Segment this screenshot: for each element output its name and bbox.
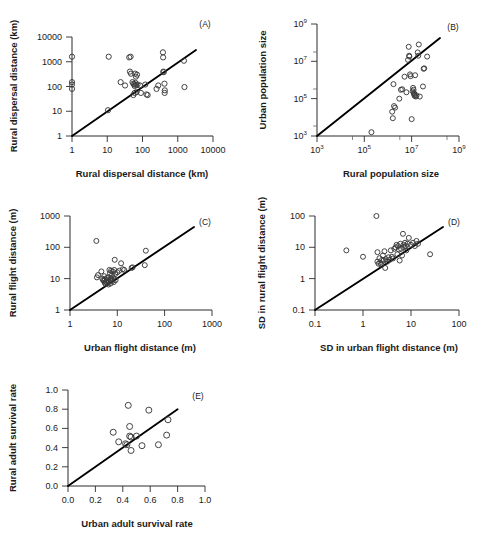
panel-B-canvas: 109 107 105 103 103 105 107 109 Rural po…: [251, 0, 501, 190]
data-point: [125, 402, 131, 408]
data-point: [155, 442, 161, 448]
xtick-label: 109: [452, 143, 466, 155]
panel-D-xaxis-title: SD in urban flight distance (m): [320, 342, 458, 353]
panel-A-ytick-labels: 10000 1000 100 10 1: [37, 32, 62, 141]
panel-E-yaxis-title: Rural adult survival rate: [7, 384, 18, 492]
panel-D-reference-line: [315, 227, 443, 310]
data-point: [110, 429, 116, 435]
data-point: [99, 269, 104, 274]
panel-E: 1.0 0.8 0.6 0.4 0.2 0.0 0.0 0.2 0.4 0.6 …: [0, 362, 250, 545]
xtick-label: 0.6: [144, 495, 157, 505]
ytick-label: 0.6: [45, 423, 58, 433]
panel-D-ytick-labels: 100 10 1 0.1: [290, 211, 305, 315]
panel-B: 109 107 105 103 103 105 107 109 Rural po…: [251, 0, 501, 190]
xtick-label: 0.1: [309, 319, 322, 329]
ytick-label: 1000: [40, 211, 60, 221]
ytick-label: 0.0: [45, 481, 58, 491]
data-point: [400, 231, 405, 236]
ytick-label: 10: [52, 106, 62, 116]
xtick-label: 10: [102, 145, 112, 155]
data-point: [406, 235, 411, 240]
panel-D: 100 10 1 0.1 0.1 1 10 100 SD in urban fl…: [251, 185, 501, 365]
data-point: [404, 90, 409, 95]
data-point: [391, 82, 396, 87]
data-point: [162, 81, 167, 86]
data-point: [127, 423, 133, 429]
data-point: [369, 130, 374, 135]
panel-E-xtick-labels: 0.0 0.2 0.4 0.6 0.8 1.0: [62, 495, 212, 505]
data-point: [409, 117, 414, 122]
panel-D-canvas: 100 10 1 0.1 0.1 1 10 100 SD in urban fl…: [251, 185, 501, 365]
xtick-label: 10: [406, 319, 416, 329]
panel-C-yaxis-title: Rural flight distance (m): [7, 209, 18, 318]
data-point: [165, 417, 171, 423]
data-point: [139, 443, 145, 449]
ytick-label: 0.8: [45, 404, 58, 414]
panel-A-xaxis-title: Rural dispersal distance (km): [76, 168, 209, 179]
data-point: [94, 238, 99, 243]
data-point: [182, 84, 187, 89]
data-point: [428, 252, 433, 257]
ytick-label: 107: [294, 54, 308, 66]
data-point: [122, 83, 127, 88]
panel-E-reference-line: [68, 409, 178, 486]
ytick-label: 100: [290, 211, 305, 221]
data-point: [397, 258, 402, 263]
panel-A-data-points: [69, 50, 187, 113]
ytick-label: 100: [45, 242, 60, 252]
ytick-label: 105: [294, 92, 308, 104]
panel-E-data-points: [110, 402, 171, 453]
data-point: [146, 407, 152, 413]
ytick-label: 0.1: [292, 305, 305, 315]
panel-E-canvas: 1.0 0.8 0.6 0.4 0.2 0.0 0.0 0.2 0.4 0.6 …: [0, 362, 250, 545]
xtick-label: 0.4: [117, 495, 130, 505]
data-point: [344, 248, 349, 253]
panel-C-ytick-labels: 1000 100 10 1: [40, 211, 60, 315]
data-point: [142, 263, 147, 268]
ytick-label: 0.4: [45, 443, 58, 453]
data-point: [361, 254, 366, 259]
panel-C-tag: (C): [199, 217, 211, 227]
panel-B-ytick-labels: 109 107 105 103: [294, 17, 308, 141]
data-point: [112, 257, 117, 262]
ytick-label: 1000: [42, 57, 62, 67]
data-point: [119, 261, 124, 266]
xtick-label: 1: [69, 145, 74, 155]
ytick-label: 10000: [37, 32, 62, 42]
data-point: [390, 116, 395, 121]
data-point: [116, 439, 122, 445]
data-point: [402, 74, 407, 79]
panel-B-tag: (B): [447, 22, 459, 32]
xtick-label: 10: [112, 319, 122, 329]
xtick-label: 10000: [200, 145, 225, 155]
data-point: [420, 84, 425, 89]
data-point: [375, 250, 380, 255]
panel-E-ytick-labels: 1.0 0.8 0.6 0.4 0.2 0.0: [45, 385, 58, 491]
panel-A-canvas: 10000 1000 100 10 1 1 10 100 1000 10000 …: [0, 0, 250, 190]
panel-B-reference-line: [317, 38, 440, 136]
panel-E-tag: (E): [192, 391, 204, 401]
ytick-label: 10: [50, 274, 60, 284]
panel-A-tag: (A): [199, 19, 211, 29]
data-point: [406, 44, 411, 49]
xtick-label: 100: [157, 319, 172, 329]
data-point: [393, 105, 398, 110]
xtick-label: 0.0: [62, 495, 75, 505]
panel-C-xtick-labels: 1 10 100 1000: [67, 319, 222, 329]
xtick-label: 0.8: [171, 495, 184, 505]
scatter-plot-figure: 10000 1000 100 10 1 1 10 100 1000 10000 …: [0, 0, 501, 545]
ytick-label: 1: [57, 131, 62, 141]
data-point: [416, 42, 421, 47]
xtick-label: 103: [310, 143, 324, 155]
ytick-label: 10: [295, 242, 305, 252]
panel-B-yaxis-title: Urban population size: [257, 30, 268, 129]
panel-C-reference-line: [70, 227, 194, 310]
xtick-label: 100: [451, 319, 466, 329]
panel-D-xtick-labels: 0.1 1 10 100: [309, 319, 467, 329]
data-point: [143, 248, 148, 253]
panel-C-canvas: 1000 100 10 1 1 10 100 1000 Urban flight…: [0, 185, 250, 365]
panel-C-xaxis-title: Urban flight distance (m): [84, 342, 196, 353]
data-point: [374, 214, 379, 219]
ytick-label: 1.0: [45, 385, 58, 395]
data-point: [106, 54, 111, 59]
